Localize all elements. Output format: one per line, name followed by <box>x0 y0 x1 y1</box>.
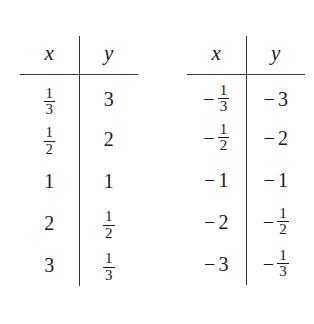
table-row: 1 2 2 <box>20 118 138 160</box>
table-row: 2 1 2 <box>20 202 138 244</box>
integer-value: 3 <box>218 254 228 274</box>
column-header-x: x <box>20 36 79 75</box>
fraction-denominator: 2 <box>103 225 115 241</box>
value: 2 <box>44 213 54 233</box>
integer-value: 2 <box>104 129 114 149</box>
cell-x: − 1 <box>187 159 246 201</box>
value: − 1 3 <box>203 83 229 115</box>
fraction-denominator: 2 <box>277 221 289 237</box>
minus-sign: − <box>264 89 275 109</box>
fraction-numerator: 1 <box>218 83 230 98</box>
minus-sign: − <box>264 170 275 190</box>
cell-y: − 1 3 <box>246 243 305 285</box>
value: 1 3 <box>103 251 115 283</box>
fraction: 1 3 <box>44 86 56 118</box>
cell-x: − 2 <box>187 201 246 243</box>
value: − 2 <box>264 128 288 148</box>
value: − 1 3 <box>263 248 289 280</box>
integer-value: 1 <box>218 170 228 190</box>
cell-x: − 1 3 <box>187 75 246 117</box>
table-row: − 2 − 1 2 <box>187 201 305 243</box>
integer-value: 1 <box>278 170 288 190</box>
data-table: x y − 1 3 <box>187 36 305 285</box>
integer-value: 1 <box>44 171 54 191</box>
cell-y: − 3 <box>246 75 305 117</box>
column-header-y: y <box>79 36 138 75</box>
minus-sign: − <box>263 212 274 232</box>
fraction-numerator: 1 <box>103 251 115 266</box>
value: 1 <box>44 171 54 191</box>
value: − 1 2 <box>263 206 289 238</box>
value: 1 3 <box>44 86 56 118</box>
table-header: x y <box>20 36 138 75</box>
value: − 1 <box>264 170 288 190</box>
table-body: 1 3 3 1 <box>20 75 138 286</box>
table-row: 1 3 3 <box>20 75 138 118</box>
cell-x: 1 3 <box>20 75 79 118</box>
fraction-numerator: 1 <box>44 86 56 101</box>
table-row: − 1 3 − 3 <box>187 75 305 117</box>
cell-y: 1 <box>79 160 138 202</box>
fraction-numerator: 1 <box>277 248 289 263</box>
cell-x: 3 <box>20 244 79 286</box>
minus-sign: − <box>203 89 214 109</box>
cell-y: − 2 <box>246 117 305 159</box>
minus-sign: − <box>203 128 214 148</box>
cell-y: 3 <box>79 75 138 118</box>
minus-sign: − <box>204 170 215 190</box>
integer-value: 3 <box>44 255 54 275</box>
fraction-denominator: 3 <box>277 263 289 279</box>
value: 1 2 <box>44 125 56 157</box>
cell-x: 2 <box>20 202 79 244</box>
value: − 3 <box>204 254 228 274</box>
fraction-numerator: 1 <box>218 122 230 137</box>
integer-value: 2 <box>278 128 288 148</box>
fraction-numerator: 1 <box>103 209 115 224</box>
fraction-denominator: 3 <box>103 267 115 283</box>
value: 1 <box>104 171 114 191</box>
table-row: − 1 2 − 2 <box>187 117 305 159</box>
fraction-denominator: 3 <box>44 101 56 117</box>
column-header-x: x <box>187 36 246 75</box>
cell-y: 1 3 <box>79 244 138 286</box>
fraction-numerator: 1 <box>277 206 289 221</box>
table-row: − 1 − 1 <box>187 159 305 201</box>
minus-sign: − <box>264 128 275 148</box>
fraction-denominator: 3 <box>218 98 230 114</box>
fraction: 1 3 <box>277 248 289 280</box>
fraction-denominator: 2 <box>44 141 56 157</box>
header-row: x y <box>20 36 138 75</box>
fraction: 1 2 <box>103 209 115 241</box>
negative-reciprocal-table: x y − 1 3 <box>187 36 305 285</box>
value: 3 <box>44 255 54 275</box>
table-body: − 1 3 − 3 <box>187 75 305 285</box>
integer-value: 3 <box>104 89 114 109</box>
value: 1 2 <box>103 209 115 241</box>
fraction-denominator: 2 <box>218 137 230 153</box>
table-row: − 3 − 1 3 <box>187 243 305 285</box>
value: − 2 <box>204 212 228 232</box>
data-table: x y 1 3 3 <box>20 36 138 286</box>
cell-x: − 1 2 <box>187 117 246 159</box>
value: − 1 2 <box>203 122 229 154</box>
integer-value: 2 <box>44 213 54 233</box>
value: − 3 <box>264 89 288 109</box>
fraction: 1 3 <box>103 251 115 283</box>
table-row: 3 1 3 <box>20 244 138 286</box>
cell-x: 1 2 <box>20 118 79 160</box>
integer-value: 1 <box>104 171 114 191</box>
table-header: x y <box>187 36 305 75</box>
header-row: x y <box>187 36 305 75</box>
integer-value: 2 <box>218 212 228 232</box>
value: 3 <box>104 89 114 109</box>
fraction-numerator: 1 <box>44 125 56 140</box>
cell-x: 1 <box>20 160 79 202</box>
table-row: 1 1 <box>20 160 138 202</box>
fraction: 1 3 <box>218 83 230 115</box>
minus-sign: − <box>204 212 215 232</box>
cell-x: − 3 <box>187 243 246 285</box>
fraction: 1 2 <box>44 125 56 157</box>
minus-sign: − <box>263 254 274 274</box>
integer-value: 3 <box>278 89 288 109</box>
tables-container: x y 1 3 3 <box>0 0 314 324</box>
